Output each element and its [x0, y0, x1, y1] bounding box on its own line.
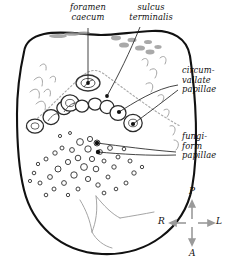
label-sulcus-terminalis: sulcus terminalis [120, 3, 182, 22]
label-fungiform-papillae: fungi- form papillae [182, 132, 228, 161]
compass-label-left: L [216, 216, 222, 226]
label-circumvallate-papillae: circum- vallate papillae [182, 66, 228, 95]
compass-label-posterior: P [189, 186, 195, 196]
compass-label-anterior: A [189, 248, 196, 258]
compass-label-right: R [158, 216, 165, 226]
label-foramen-caecum: foramen caecum [56, 3, 120, 22]
